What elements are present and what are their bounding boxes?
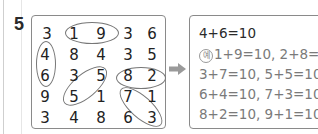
number-grid: 3 1 9 3 6 4 8 4 3 5 6 3 5 8 2 9 5 1 7 1 … bbox=[31, 15, 166, 129]
grid-cell: 3 bbox=[142, 109, 162, 127]
grid-cell: 6 bbox=[142, 25, 162, 43]
grid-cell: 4 bbox=[64, 109, 84, 127]
answer-example-text: 1+9=10, 2+8=10, bbox=[214, 46, 318, 62]
grid-cell: 9 bbox=[35, 88, 55, 106]
grid-cell: 6 bbox=[35, 67, 55, 85]
answer-box: 4+6=10 예1+9=10, 2+8=10, 3+7=10, 5+5=10, … bbox=[189, 15, 318, 129]
grid-cell: 9 bbox=[91, 25, 111, 43]
grid-cell: 6 bbox=[118, 109, 138, 127]
right-arrow-icon bbox=[167, 63, 189, 75]
grid-cell: 3 bbox=[37, 25, 57, 43]
grid-cell: 1 bbox=[91, 88, 111, 106]
grid-cell: 7 bbox=[118, 88, 138, 106]
grid-cell: 3 bbox=[118, 25, 138, 43]
grid-cell: 5 bbox=[91, 67, 111, 85]
answer-example-line: 6+4=10, 7+3=10, bbox=[199, 86, 318, 102]
grid-cell: 8 bbox=[64, 46, 84, 64]
answer-main: 4+6=10 bbox=[199, 25, 256, 41]
grid-cell: 3 bbox=[64, 67, 84, 85]
answer-example-line: 예1+9=10, 2+8=10, bbox=[199, 46, 318, 63]
answer-example-line: 8+2=10, 9+1=10 bbox=[199, 106, 318, 122]
grid-cell: 4 bbox=[35, 46, 55, 64]
grid-cell: 3 bbox=[35, 109, 55, 127]
page-margin-line-left bbox=[3, 0, 4, 134]
example-marker-icon: 예 bbox=[199, 49, 213, 63]
grid-cell: 4 bbox=[91, 46, 111, 64]
grid-cell: 8 bbox=[118, 67, 138, 85]
answer-example-line: 3+7=10, 5+5=10, bbox=[199, 66, 318, 82]
question-number: 5 bbox=[14, 14, 24, 35]
grid-cell: 3 bbox=[118, 46, 138, 64]
grid-cell: 1 bbox=[142, 88, 162, 106]
grid-cell: 1 bbox=[64, 25, 84, 43]
grid-cell: 5 bbox=[64, 88, 84, 106]
grid-cell: 2 bbox=[142, 67, 162, 85]
grid-cell: 8 bbox=[91, 109, 111, 127]
grid-cell: 5 bbox=[142, 46, 162, 64]
